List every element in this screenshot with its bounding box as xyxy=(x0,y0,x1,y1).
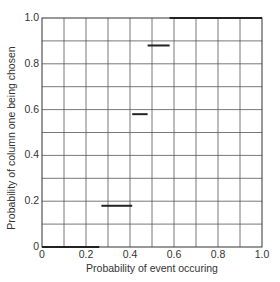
y-tick-label: 0.6 xyxy=(24,103,39,115)
x-tick-label: 0.8 xyxy=(211,248,226,260)
x-axis-label: Probability of event occuring xyxy=(42,262,262,274)
x-tick-label: 1.0 xyxy=(255,248,270,260)
x-tick-label: 0.4 xyxy=(123,248,138,260)
y-tick-label: 0.8 xyxy=(24,57,39,69)
y-tick-label: 0.2 xyxy=(24,194,39,206)
grid-lines xyxy=(42,18,262,247)
x-tick-label: 0 xyxy=(39,248,45,260)
x-tick-label: 0.2 xyxy=(79,248,94,260)
x-tick-label: 0.6 xyxy=(167,248,182,260)
y-tick-label: 0.4 xyxy=(24,148,39,160)
y-axis-label: Probability of column one being chosen xyxy=(5,28,17,248)
step-chart xyxy=(0,0,280,282)
y-tick-label: 1.0 xyxy=(24,11,39,23)
